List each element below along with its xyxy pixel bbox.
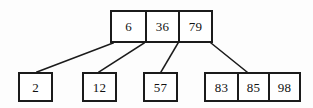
- root-node: 6 36 79: [110, 10, 213, 43]
- child-key-cell: 98: [268, 74, 299, 100]
- child-node-4: 83 85 98: [204, 72, 301, 102]
- root-key-cell: 79: [178, 12, 211, 41]
- child-node-2: 12: [82, 72, 117, 102]
- edge-root-to-child-1: [37, 43, 113, 72]
- edge-root-to-child-3: [161, 43, 178, 72]
- edge-root-to-child-2: [99, 43, 144, 72]
- child-key-cell: 12: [84, 74, 115, 100]
- root-key-cell: 36: [145, 12, 178, 41]
- child-key-cell: 2: [20, 74, 51, 100]
- child-key-cell: 83: [206, 74, 237, 100]
- root-key-cell: 6: [112, 12, 145, 41]
- b-tree-diagram: 6 36 79 2 12 57 83 85 98: [0, 0, 313, 108]
- edge-root-to-child-4: [211, 43, 247, 72]
- child-node-1: 2: [18, 72, 53, 102]
- child-node-3: 57: [143, 72, 178, 102]
- child-key-cell: 57: [145, 74, 176, 100]
- child-key-cell: 85: [237, 74, 268, 100]
